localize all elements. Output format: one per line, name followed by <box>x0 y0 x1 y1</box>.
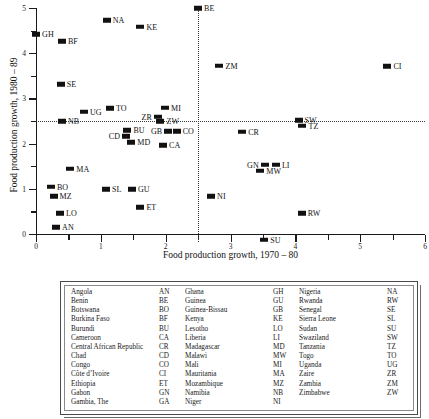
legend-country-name: Kenya <box>185 315 273 324</box>
data-point-label: UG <box>90 107 102 116</box>
x-tick <box>68 235 69 240</box>
data-point-marker <box>156 119 164 124</box>
y-tick <box>29 8 36 9</box>
legend-country-code: LO <box>273 325 299 334</box>
legend-country-name: Ethiopia <box>71 380 159 389</box>
legend-row: MozambiqueMZ <box>185 380 299 389</box>
legend-row: MalawiMW <box>185 352 299 361</box>
data-point-label: LI <box>282 160 290 169</box>
legend-row: BeninBE <box>71 297 185 306</box>
legend-row: ZaireZR <box>299 370 413 379</box>
legend-country-code: BF <box>159 315 185 324</box>
reference-line-horizontal <box>36 121 425 122</box>
legend-country-code: ZM <box>387 380 413 389</box>
data-point-label: MW <box>266 166 281 175</box>
legend-row: BurundiBU <box>71 325 185 334</box>
data-point-label: MZ <box>60 192 72 201</box>
legend-country-code: GH <box>273 288 299 297</box>
y-tick <box>29 53 36 54</box>
data-point-marker <box>47 185 55 190</box>
legend-country-name: Malawi <box>185 352 273 361</box>
x-tick <box>360 235 361 242</box>
legend-country-code: TZ <box>387 343 413 352</box>
legend-country-code: AN <box>159 288 185 297</box>
country-code-legend: AngolaANBeninBEBotswanaBOBurkina FasoBFB… <box>60 281 418 415</box>
data-point-marker <box>136 205 144 210</box>
legend-row: TogoTO <box>299 352 413 361</box>
legend-country-code: SU <box>387 325 413 334</box>
legend-row: Gambia, TheGA <box>71 398 185 407</box>
data-point-marker <box>58 39 66 44</box>
data-point-marker <box>57 82 65 87</box>
data-point-marker <box>215 64 223 69</box>
data-point-label: CO <box>183 127 194 136</box>
legend-row: Guinea-BissauGB <box>185 306 299 315</box>
legend-country-name: Zaire <box>299 370 387 379</box>
x-tick <box>328 235 329 240</box>
legend-row: Sierra LeoneSL <box>299 315 413 324</box>
legend-country-code: RW <box>387 297 413 306</box>
legend-country-name: Burundi <box>71 325 159 334</box>
legend-country-name: Liberia <box>185 334 273 343</box>
legend-country-code: MZ <box>273 380 299 389</box>
legend-country-code: GB <box>273 306 299 315</box>
legend-country-code: MA <box>273 370 299 379</box>
legend-country-name: Congo <box>71 361 159 370</box>
data-point-label: CD <box>109 132 120 141</box>
data-point-marker <box>207 194 215 199</box>
legend-country-name: Madagascar <box>185 343 273 352</box>
legend-row: KenyaKE <box>185 315 299 324</box>
data-point-label: GU <box>138 185 150 194</box>
legend-country-name: Côte d’Ivoire <box>71 370 159 379</box>
legend-country-name: Niger <box>185 398 273 407</box>
legend-row: SudanSU <box>299 325 413 334</box>
legend-country-name: Cameroon <box>71 334 159 343</box>
legend-column: NigeriaNARwandaRWSenegalSESierra LeoneSL… <box>299 288 413 412</box>
legend-country-code: TO <box>387 352 413 361</box>
legend-country-name: Burkina Faso <box>71 315 159 324</box>
x-tick <box>393 235 394 240</box>
y-tick <box>29 189 36 190</box>
legend-country-code: CA <box>159 334 185 343</box>
legend-row: BotswanaBO <box>71 306 185 315</box>
x-tick <box>36 235 37 242</box>
legend-country-name: Swaziland <box>299 334 387 343</box>
data-point-label: ET <box>146 203 156 212</box>
data-point-marker <box>298 211 306 216</box>
legend-row: MadagascarMD <box>185 343 299 352</box>
x-tick <box>295 235 296 242</box>
scatter-chart: 012345 0123456 GHNAKEBEBFZMCISEUGTOZRMIZ… <box>0 0 429 272</box>
y-tick-label: 5 <box>10 4 26 13</box>
data-point-marker <box>103 18 111 23</box>
data-point-marker <box>194 6 202 11</box>
legend-row: SenegalSE <box>299 306 413 315</box>
legend-row: Central African RepublicCR <box>71 343 185 352</box>
legend-country-code: MI <box>273 361 299 370</box>
legend-country-name: Gambia, The <box>71 398 159 407</box>
legend-country-name: Senegal <box>299 306 387 315</box>
data-point-label: LO <box>66 209 77 218</box>
data-point-marker <box>50 194 58 199</box>
legend-country-code: LI <box>273 334 299 343</box>
data-point-marker <box>173 129 181 134</box>
legend-country-name: Gabon <box>71 389 159 398</box>
legend-country-code: UG <box>387 361 413 370</box>
data-point-label: TO <box>116 104 127 113</box>
data-point-marker <box>58 119 66 124</box>
data-point-marker <box>260 238 268 243</box>
data-point-marker <box>136 24 144 29</box>
data-point-label: MD <box>137 138 150 147</box>
data-point-label: BE <box>204 4 214 13</box>
legend-country-name: Nigeria <box>299 288 387 297</box>
y-tick <box>31 211 36 212</box>
legend-country-code: BO <box>159 306 185 315</box>
y-tick <box>31 76 36 77</box>
legend-row: LesothoLO <box>185 325 299 334</box>
legend-country-code: GN <box>159 389 185 398</box>
legend-country-name: Ghana <box>185 288 273 297</box>
data-point-label: KE <box>146 22 157 31</box>
data-point-label: CA <box>169 141 180 150</box>
data-point-label: ZR <box>141 112 151 121</box>
legend-country-name: Zambia <box>299 380 387 389</box>
legend-country-code: GA <box>159 398 185 407</box>
